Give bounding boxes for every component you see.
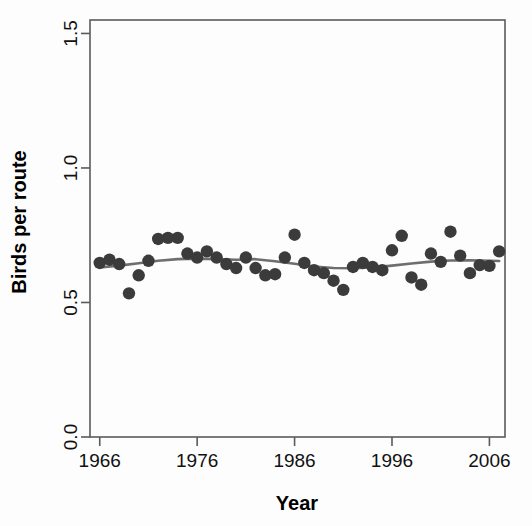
y-tick-label: 1.5 <box>60 20 81 46</box>
data-point <box>318 267 330 279</box>
data-point <box>230 262 242 274</box>
x-tick-label: 1996 <box>371 450 413 471</box>
data-point <box>327 274 339 286</box>
x-axis-tick-labels: 19661976198619962006 <box>79 450 511 471</box>
data-point <box>464 267 476 279</box>
data-point <box>337 284 349 296</box>
data-point <box>483 260 495 272</box>
plot-frame <box>90 20 505 437</box>
x-axis-title: Year <box>276 492 318 514</box>
data-point <box>113 258 125 270</box>
y-axis-ticks <box>81 33 90 437</box>
data-point <box>269 268 281 280</box>
scatter-chart: 0.00.51.01.5 19661976198619962006 Year B… <box>0 0 532 526</box>
data-point <box>493 245 505 257</box>
data-point <box>240 251 252 263</box>
y-axis-tick-labels: 0.00.51.01.5 <box>60 20 81 450</box>
y-axis-title: Birds per route <box>8 150 30 293</box>
data-point <box>396 230 408 242</box>
y-tick-label: 0.5 <box>60 289 81 315</box>
data-point <box>288 228 300 240</box>
x-tick-label: 1986 <box>273 450 315 471</box>
x-tick-label: 2006 <box>468 450 510 471</box>
data-point <box>444 226 456 238</box>
data-point <box>123 287 135 299</box>
data-point <box>142 255 154 267</box>
data-point <box>376 264 388 276</box>
data-point <box>425 247 437 259</box>
data-point <box>415 279 427 291</box>
data-point <box>171 232 183 244</box>
data-point <box>279 251 291 263</box>
plot-container: 0.00.51.01.5 19661976198619962006 Year B… <box>0 0 532 526</box>
data-point <box>133 269 145 281</box>
y-tick-label: 0.0 <box>60 424 81 450</box>
data-point <box>435 256 447 268</box>
x-axis-ticks <box>100 437 490 446</box>
x-tick-label: 1966 <box>79 450 121 471</box>
data-point <box>454 249 466 261</box>
y-tick-label: 1.0 <box>60 155 81 181</box>
data-point <box>386 244 398 256</box>
x-tick-label: 1976 <box>176 450 218 471</box>
data-points <box>94 226 506 300</box>
